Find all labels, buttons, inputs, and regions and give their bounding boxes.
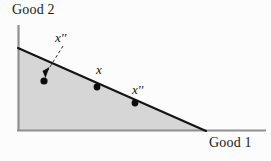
- point-label-x-right: x'': [132, 82, 143, 98]
- point-label-x-interior: x'': [55, 30, 66, 46]
- point-x-mid: [94, 84, 101, 91]
- point-x-interior: [40, 77, 47, 84]
- x-axis-label: Good 1: [209, 135, 252, 151]
- point-label-x-mid: x: [96, 62, 102, 78]
- point-x-right: [132, 100, 139, 107]
- budget-set-figure: Good 2 Good 1 x'' x x'': [0, 0, 271, 161]
- y-axis-label: Good 2: [12, 2, 55, 18]
